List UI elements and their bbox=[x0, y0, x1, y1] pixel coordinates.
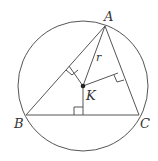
perpendicular-to-ab bbox=[69, 66, 83, 86]
point-k bbox=[81, 84, 86, 89]
label-b: B bbox=[13, 116, 24, 131]
label-a: A bbox=[103, 9, 113, 24]
label-c: C bbox=[140, 116, 150, 131]
segment-ak bbox=[83, 26, 105, 86]
label-r: r bbox=[96, 51, 102, 64]
perpendicular-to-ac bbox=[83, 73, 118, 86]
side-ac bbox=[105, 26, 139, 115]
right-angle-mark-ac bbox=[114, 75, 124, 82]
right-angle-mark-bc bbox=[74, 107, 83, 115]
geometry-diagram: A B C K r bbox=[0, 0, 158, 161]
label-k: K bbox=[85, 88, 97, 103]
